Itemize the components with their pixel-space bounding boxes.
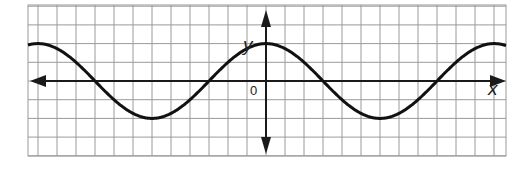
y-axis-up-arrow-icon bbox=[261, 10, 271, 27]
y-axis-label: y bbox=[241, 34, 254, 55]
cosine-graph: y x 0 bbox=[0, 0, 528, 169]
y-axis-down-arrow-icon bbox=[261, 137, 271, 154]
origin-label: 0 bbox=[250, 83, 257, 98]
x-axis-label: x bbox=[487, 78, 499, 99]
